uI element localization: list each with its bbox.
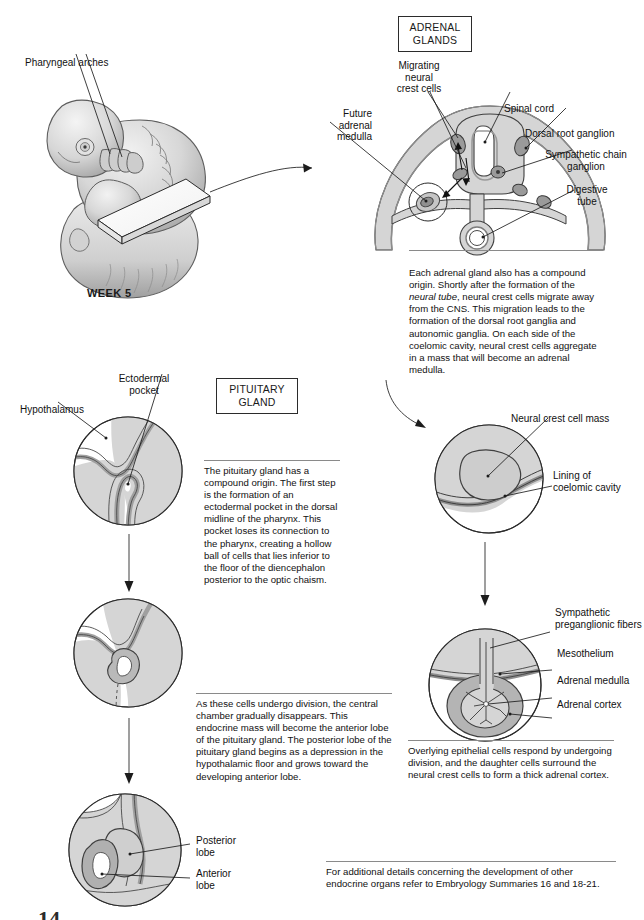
label-adrenal-medulla: Adrenal medulla [557,675,629,687]
label-posterior-lobe: Posterior lobe [196,835,236,858]
pituitary-stage3-illustration [64,792,186,912]
label-sympathetic-preganglionic-fibers: Sympathetic preganglionic fibers [555,607,642,630]
section-header-adrenal-glands: ADRENAL GLANDS [398,16,472,52]
label-pharyngeal-arches: Pharyngeal arches [25,57,108,69]
footer-note: For additional details concerning the de… [326,861,616,890]
adrenal-cortex-medulla-illustration [424,626,548,746]
figure-page: Pharyngeal arches WEEK 5 ADRENAL GLANDS [0,0,644,920]
caption-text-pre: Each adrenal gland also has a compound o… [409,267,586,290]
pituitary-stage2-illustration [72,598,186,710]
caption-text-post: , neural crest cells migrate away from t… [409,291,597,375]
label-mesothelium: Mesothelium [557,648,614,660]
label-anterior-lobe: Anterior lobe [196,868,231,891]
label-sympathetic-chain-ganglion: Sympathetic chain ganglion [528,149,644,172]
caption-adrenal-compound-origin: Each adrenal gland also has a compound o… [409,250,603,376]
caption-text-italic: neural tube [409,291,457,302]
label-neural-crest-cell-mass: Neural crest cell mass [511,413,609,425]
caption-pituitary-compound-origin: The pituitary gland has a compound origi… [204,460,340,586]
adrenal-cross-section-illustration [352,98,644,258]
label-adrenal-cortex: Adrenal cortex [557,699,621,711]
neural-crest-mass-illustration [432,424,548,536]
caption-overlying-epithelial-cells: Overlying epithelial cells respond by un… [408,740,614,781]
pituitary-stage1-illustration [72,416,186,528]
flow-arrow-to-adrenal-circle [478,542,492,608]
label-migrating-neural-crest-cells: Migrating neural crest cells [383,60,455,95]
section-header-pituitary-gland: PITUITARY GLAND [216,378,298,414]
label-dorsal-root-ganglion: Dorsal root ganglion [525,128,615,140]
cropped-page-marker: 14 [38,906,60,920]
label-digestive-tube: Digestive tube [555,184,619,207]
caption-pituitary-lobes: As these cells undergo division, the cen… [196,693,392,783]
flow-arrow-pituitary-2 [122,718,136,786]
label-spinal-cord: Spinal cord [504,103,554,115]
label-future-adrenal-medulla: Future adrenal medulla [318,108,372,143]
label-hypothalamus: Hypothalamus [20,404,84,416]
embryo-illustration [14,34,314,304]
flow-arrow-pituitary-1 [122,534,136,594]
label-lining-of-coelomic-cavity: Lining of coelomic cavity [553,470,621,493]
label-week-5: WEEK 5 [87,287,132,299]
label-ectodermal-pocket: Ectodermal pocket [113,373,175,396]
